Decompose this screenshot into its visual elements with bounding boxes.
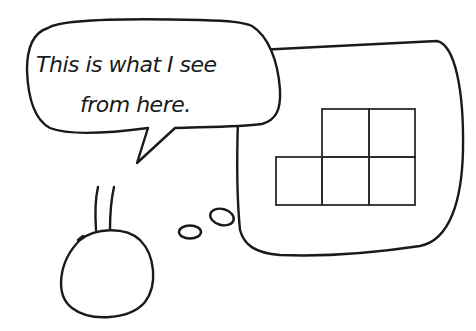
- thought-dot-small: [179, 226, 201, 239]
- neck-line-left: [95, 187, 98, 230]
- speech-line-2: from here.: [80, 92, 191, 117]
- comic-illustration: This is what I see from here.: [0, 0, 476, 331]
- head: [61, 230, 153, 317]
- thought-dot-large: [208, 206, 235, 228]
- neck-line-right: [110, 187, 114, 230]
- speech-line-1: This is what I see: [36, 52, 217, 77]
